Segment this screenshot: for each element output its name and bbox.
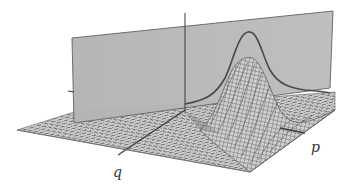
wigner-surface-figure <box>0 0 351 189</box>
q-axis-label: q <box>113 164 122 180</box>
p-axis-label: p <box>311 139 320 155</box>
